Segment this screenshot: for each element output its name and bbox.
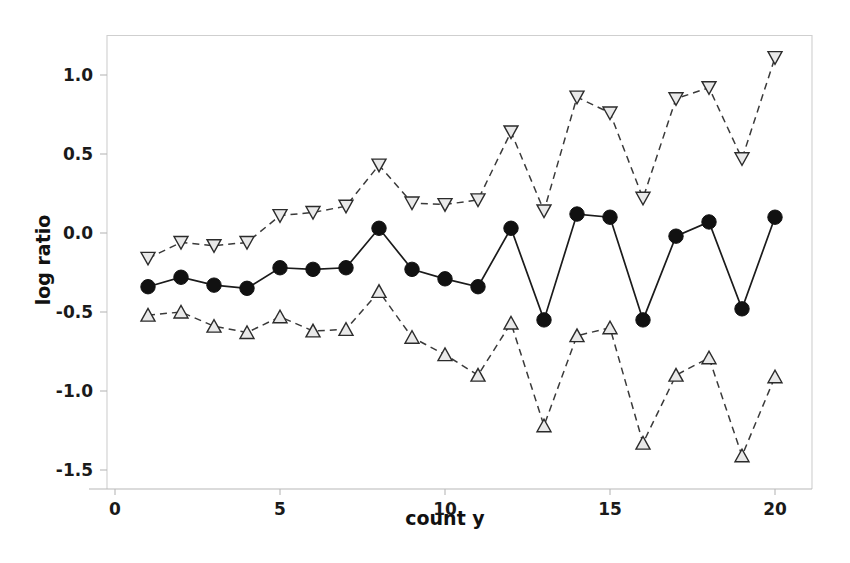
plot-border	[107, 36, 812, 489]
y-tick-label: -1.5	[56, 460, 93, 480]
data-point-triangle-down	[570, 91, 584, 104]
data-point-circle	[240, 281, 254, 295]
chart-figure: 051015201.00.50.0-0.5-1.0-1.5 count y lo…	[0, 0, 850, 563]
data-point-triangle-down	[141, 252, 155, 265]
data-point-triangle-up	[636, 436, 650, 449]
data-point-triangle-down	[207, 240, 221, 253]
data-point-triangle-up	[405, 331, 419, 344]
series-line	[148, 58, 775, 259]
plot-frame	[89, 36, 812, 489]
data-point-triangle-down	[405, 197, 419, 210]
data-point-circle	[537, 313, 551, 327]
data-point-circle	[471, 280, 485, 294]
data-point-triangle-up	[174, 305, 188, 318]
data-point-circle	[603, 210, 617, 224]
data-point-triangle-up	[735, 449, 749, 462]
x-tick-label: 0	[109, 499, 121, 519]
x-tick-label: 20	[763, 499, 787, 519]
data-point-circle	[768, 210, 782, 224]
data-point-circle	[306, 262, 320, 276]
data-point-triangle-down	[735, 153, 749, 166]
series-line	[148, 214, 775, 320]
data-point-triangle-down	[702, 82, 716, 95]
data-point-triangle-down	[537, 205, 551, 218]
data-point-triangle-up	[669, 369, 683, 382]
data-point-circle	[669, 229, 683, 243]
data-point-triangle-down	[372, 159, 386, 172]
data-point-circle	[570, 207, 584, 221]
y-tick-label: 0.0	[63, 223, 93, 243]
y-axis-title: log ratio	[32, 215, 54, 306]
data-point-circle	[636, 313, 650, 327]
y-tick-label: -1.0	[56, 381, 93, 401]
data-point-triangle-up	[537, 419, 551, 432]
data-point-triangle-up	[438, 348, 452, 361]
data-point-triangle-down	[504, 126, 518, 139]
data-point-circle	[174, 270, 188, 284]
data-point-circle	[405, 262, 419, 276]
axis-ticks	[100, 75, 775, 495]
y-tick-label: 1.0	[63, 65, 93, 85]
data-point-circle	[141, 280, 155, 294]
chart-canvas: 051015201.00.50.0-0.5-1.0-1.5 count y lo…	[0, 0, 850, 563]
data-point-circle	[702, 215, 716, 229]
data-point-triangle-down	[603, 107, 617, 120]
data-point-triangle-up	[372, 285, 386, 298]
data-point-circle	[504, 221, 518, 235]
data-point-triangle-down	[438, 199, 452, 212]
data-point-triangle-up	[768, 370, 782, 383]
data-point-triangle-up	[504, 316, 518, 329]
data-point-triangle-down	[636, 192, 650, 205]
data-point-triangle-up	[339, 323, 353, 336]
data-point-circle	[273, 261, 287, 275]
data-point-triangle-up	[570, 329, 584, 342]
data-series	[141, 52, 782, 265]
data-point-triangle-up	[603, 321, 617, 334]
data-point-triangle-down	[768, 52, 782, 65]
x-tick-label: 15	[598, 499, 622, 519]
x-tick-label: 5	[274, 499, 286, 519]
data-point-circle	[207, 278, 221, 292]
data-point-circle	[438, 272, 452, 286]
data-series	[141, 207, 782, 327]
y-tick-label: -0.5	[56, 302, 93, 322]
axis-tick-labels: 051015201.00.50.0-0.5-1.0-1.5	[56, 65, 787, 519]
x-axis-title: count y	[405, 507, 485, 529]
data-point-triangle-up	[207, 320, 221, 333]
data-point-circle	[735, 302, 749, 316]
data-series-group	[141, 52, 782, 462]
data-point-triangle-up	[273, 310, 287, 323]
data-series	[141, 285, 782, 462]
data-point-triangle-up	[471, 369, 485, 382]
y-tick-label: 0.5	[63, 144, 93, 164]
data-point-triangle-up	[702, 351, 716, 364]
data-point-circle	[372, 221, 386, 235]
data-point-triangle-down	[669, 93, 683, 106]
series-line	[148, 291, 775, 455]
data-point-circle	[339, 261, 353, 275]
